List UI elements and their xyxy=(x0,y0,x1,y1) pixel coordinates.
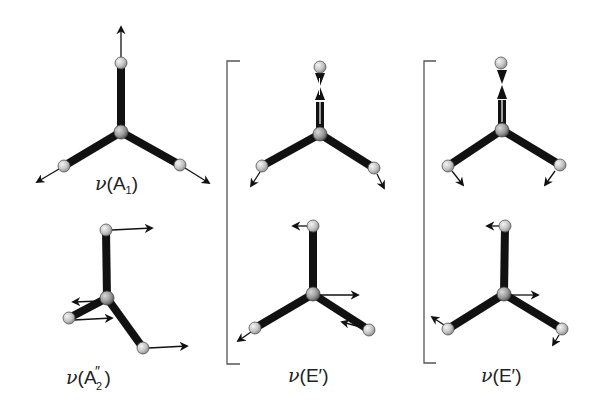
nu-symbol: ν xyxy=(95,172,107,194)
central-atom xyxy=(100,291,114,305)
bond xyxy=(255,294,313,328)
mode-label-e-mid: ν(E′) xyxy=(288,364,328,387)
bond xyxy=(107,298,143,348)
mode-a2-molecule xyxy=(63,224,187,354)
mode-e-mid-top-molecule xyxy=(251,61,384,188)
bond xyxy=(106,230,107,298)
displacement-arrow-icon xyxy=(112,228,152,230)
nu-symbol: ν xyxy=(288,364,300,386)
symmetry-species: A xyxy=(113,173,126,194)
displacement-arrow-icon xyxy=(238,332,251,341)
outer-atom xyxy=(554,159,566,171)
outer-atom xyxy=(115,57,127,69)
central-atom xyxy=(497,287,511,301)
outer-atom xyxy=(495,57,507,69)
displacement-arrow-icon xyxy=(37,169,59,182)
outer-atom xyxy=(368,162,380,174)
symmetry-species: E′ xyxy=(499,365,515,386)
paren-close: ) xyxy=(105,367,111,388)
outer-atom xyxy=(137,342,149,354)
paren-close: ) xyxy=(132,173,138,194)
displacement-arrow-icon xyxy=(251,172,260,186)
displacement-arrow-icon xyxy=(149,346,187,348)
outer-atom xyxy=(63,312,75,324)
nu-symbol: ν xyxy=(481,364,493,386)
mode-e-mid-bottom-molecule xyxy=(238,220,375,341)
paren-close: ) xyxy=(322,365,328,386)
bond xyxy=(320,134,374,168)
outer-atom xyxy=(556,323,568,335)
bond xyxy=(448,294,504,329)
outer-atom xyxy=(499,220,511,232)
mode-label-a1: ν(A1) xyxy=(95,172,138,196)
mode-label-a2: ν(A″2) xyxy=(66,366,111,389)
compression-arrowhead-icon xyxy=(497,85,507,99)
outer-atom xyxy=(442,160,454,172)
displacement-arrow-icon xyxy=(432,317,444,325)
bond xyxy=(64,132,121,166)
outer-atom xyxy=(314,61,326,73)
bond xyxy=(502,130,560,165)
displacement-arrow-icon xyxy=(553,335,559,345)
symmetry-superscript: ″ xyxy=(95,363,100,379)
symmetry-species-stack: A″2 xyxy=(84,367,97,389)
degenerate-pair-bracket xyxy=(227,61,240,364)
displacement-arrow-icon xyxy=(545,171,555,185)
symmetry-subscript: 2 xyxy=(96,380,102,392)
central-atom xyxy=(306,287,320,301)
bond xyxy=(313,294,369,330)
outer-atom xyxy=(256,160,268,172)
central-atom xyxy=(495,123,509,137)
bond xyxy=(121,132,180,165)
mode-a1-molecule xyxy=(37,27,209,183)
bond xyxy=(504,294,562,329)
displacement-arrow-icon xyxy=(452,171,463,185)
outer-atom xyxy=(442,323,454,335)
symmetry-species: E′ xyxy=(306,365,322,386)
central-atom xyxy=(313,127,327,141)
paren-close: ) xyxy=(515,365,521,386)
outer-atom xyxy=(249,322,261,334)
vibrational-modes-diagram xyxy=(0,0,601,407)
displacement-arrow-icon xyxy=(74,318,112,320)
mode-label-e-right: ν(E′) xyxy=(481,364,521,387)
displacement-arrow-icon xyxy=(185,168,209,183)
outer-atom xyxy=(174,159,186,171)
bond xyxy=(262,134,320,166)
mode-e-right-bottom-molecule xyxy=(432,220,568,345)
outer-atom xyxy=(58,160,70,172)
nu-symbol: ν xyxy=(66,366,78,388)
outer-atom xyxy=(307,220,319,232)
bond xyxy=(504,226,505,294)
displacement-arrow-icon xyxy=(377,174,384,188)
outer-atom xyxy=(100,224,112,236)
central-atom xyxy=(114,125,128,139)
mode-e-right-top-molecule xyxy=(442,57,566,185)
compression-arrowhead-icon xyxy=(497,70,507,84)
outer-atom xyxy=(363,324,375,336)
bond xyxy=(448,130,502,166)
